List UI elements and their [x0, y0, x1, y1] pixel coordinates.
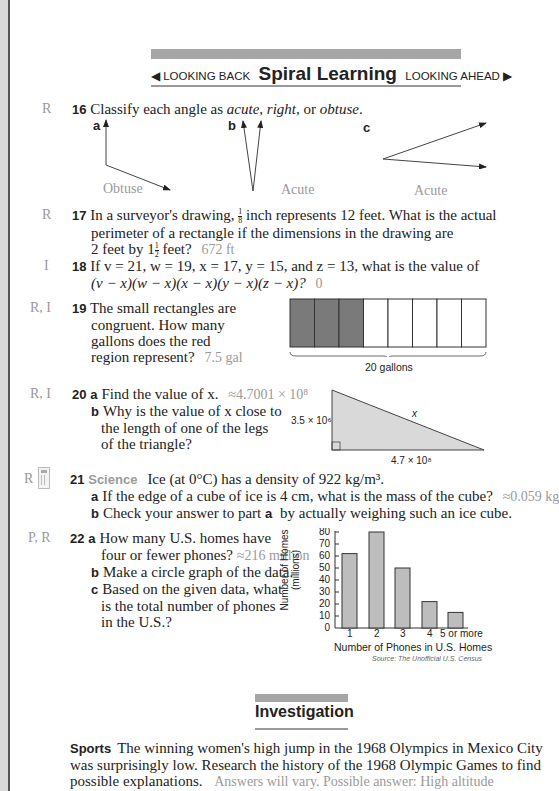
problem-number: 17	[72, 208, 86, 223]
svg-text:70: 70	[319, 538, 331, 549]
answer-16c: Acute	[414, 183, 447, 199]
x-tick-labels: 1 2 3 4 5 or more	[290, 628, 490, 642]
svg-text:20: 20	[319, 598, 331, 609]
skill-code: R	[42, 207, 51, 223]
problem-22: 22 aHow many U.S. homes have four or few…	[70, 530, 309, 630]
problem-18: 18 If v = 21, w = 19, x = 17, y = 15, an…	[72, 258, 479, 292]
subject-tag: Sports	[70, 741, 111, 756]
leg-vertical-label: 3.5 × 10⁶	[291, 415, 332, 426]
right-triangle-figure	[330, 388, 490, 454]
svg-text:80: 80	[319, 528, 331, 537]
skill-code: P, R	[28, 530, 51, 546]
skill-code: R, I	[30, 300, 51, 316]
gallon-rectangles-figure	[288, 297, 488, 357]
gallons-label: 20 gallons	[365, 361, 413, 373]
problem-number: 22	[70, 531, 84, 546]
svg-text:50: 50	[319, 562, 331, 573]
svg-text:40: 40	[319, 574, 331, 585]
skill-code: I	[44, 258, 49, 274]
answer-21a: ≈0.059 kg	[503, 489, 559, 504]
angle-diagrams	[0, 0, 526, 200]
investigation-title: Investigation	[255, 703, 354, 721]
svg-text:30: 30	[319, 586, 331, 597]
answer-16a: Obtuse	[103, 181, 143, 197]
problem-number: 19	[72, 301, 86, 316]
problem-21: 21 ScienceIce (at 0°C) has a density of …	[70, 471, 559, 522]
answer-19: 7.5 gal	[204, 350, 242, 365]
svg-text:10: 10	[319, 610, 331, 621]
problem-19: 19 The small rectangles are congruent. H…	[72, 300, 243, 366]
hypotenuse-label: x	[412, 408, 417, 419]
subject-tag: Science	[88, 472, 137, 487]
problem-number: 18	[72, 259, 86, 274]
y-axis-label: Number of Homes (millions)	[279, 525, 301, 615]
chart-source: Source: The Unofficial U.S. Census	[372, 655, 482, 662]
problem-number: 21	[70, 472, 84, 487]
answer-16b: Acute	[281, 182, 314, 198]
problem-17: 17 In a surveyor's drawing, 18 inch repr…	[72, 207, 497, 259]
investigation-answer: Answers will vary. Possible answer: High…	[214, 774, 493, 789]
leg-horizontal-label: 4.7 × 10⁸	[391, 455, 432, 466]
skill-code: R, I	[30, 386, 51, 402]
investigation-band	[255, 694, 348, 702]
answer-20a: ≈4.7001 × 10⁸	[228, 387, 308, 402]
calculator-icon	[38, 467, 50, 489]
investigation-text: SportsThe winning women's high jump in t…	[70, 740, 543, 790]
answer-17: 672 ft	[201, 242, 234, 257]
problem-20: 20 aFind the value of x. ≈4.7001 × 10⁸ b…	[72, 386, 308, 452]
x-axis-label: Number of Phones in U.S. Homes	[334, 641, 492, 653]
svg-text:60: 60	[319, 550, 331, 561]
skill-code: R	[24, 471, 33, 487]
problem-number: 20	[72, 387, 86, 402]
answer-18: 0	[315, 276, 322, 291]
phones-bar-chart: 80 70 60 50 40 30 20 10 0	[290, 528, 490, 638]
investigation-rule	[255, 728, 348, 730]
